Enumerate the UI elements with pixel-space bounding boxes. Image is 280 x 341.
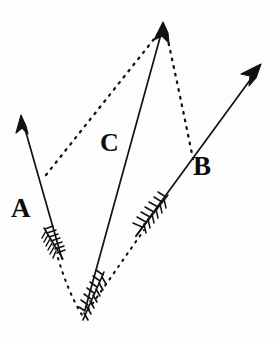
vector-label-a: A: [11, 195, 31, 222]
vector-c-group: [79, 22, 169, 320]
vector-label-c: C: [100, 130, 119, 156]
vector-a-arrowhead: [16, 115, 28, 134]
dotted-c-head-to-b: [167, 36, 193, 159]
vector-b-arrowhead: [241, 64, 261, 86]
vector-diagram-canvas: [0, 0, 280, 341]
vector-c-arrowhead: [154, 22, 169, 43]
construction-lines-group: [46, 34, 193, 315]
dotted-a-fletching-to-c-tail: [58, 258, 82, 315]
vector-c-shaft: [85, 34, 161, 310]
vector-a-fletching: [42, 226, 65, 259]
vector-diagram-figure: A B C: [0, 0, 280, 341]
vector-c-fletching: [79, 270, 106, 320]
vector-label-b: B: [193, 153, 211, 180]
vector-a-group: [16, 115, 65, 259]
vector-b-group: [133, 64, 261, 236]
